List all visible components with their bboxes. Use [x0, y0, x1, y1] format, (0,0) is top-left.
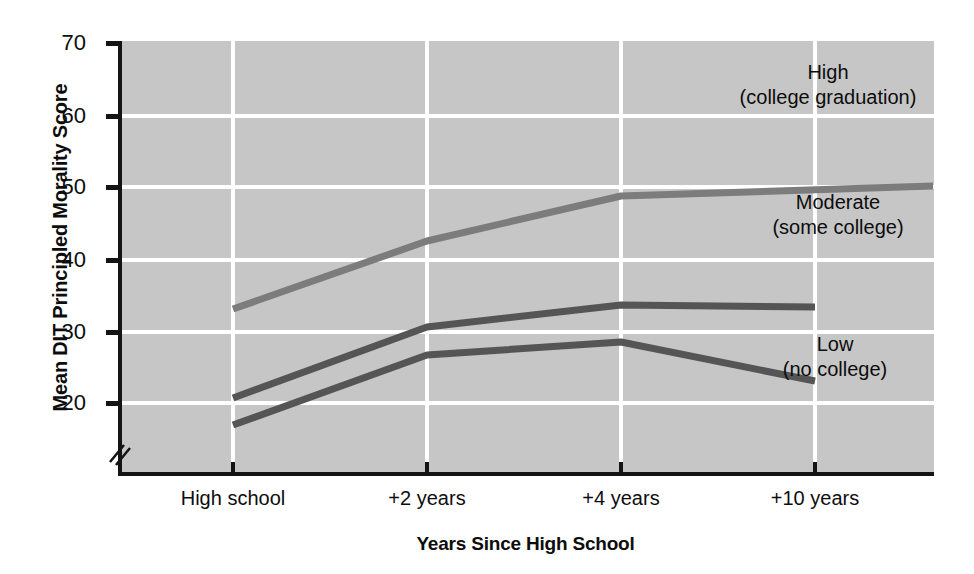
x-tick-mark-plus10 — [813, 462, 817, 474]
series-label-low: Low (no college) — [735, 332, 935, 382]
x-axis-title: Years Since High School — [118, 533, 933, 555]
y-tick-label-50: 50 — [34, 176, 86, 198]
series-label-high-note: (college graduation) — [703, 85, 953, 110]
y-tick-label-30: 30 — [34, 321, 86, 343]
x-tick-label-high-school: High school — [133, 487, 333, 509]
x-tick-mark-plus4 — [619, 462, 623, 474]
series-label-moderate-name: Moderate — [796, 191, 881, 213]
x-tick-label-plus4: +4 years — [521, 487, 721, 509]
x-tick-label-plus2: +2 years — [327, 487, 527, 509]
y-tick-label-60: 60 — [34, 105, 86, 127]
x-tick-mark-plus2 — [425, 462, 429, 474]
y-tick-label-20: 20 — [34, 392, 86, 414]
y-tick-label-70: 70 — [34, 32, 86, 54]
series-label-low-name: Low — [817, 333, 854, 355]
chart-figure: Mean DIT Principled Morality Score 70 60… — [0, 0, 974, 574]
series-label-moderate-note: (some college) — [728, 215, 948, 240]
series-label-moderate: Moderate (some college) — [728, 190, 948, 240]
y-tick-label-40: 40 — [34, 249, 86, 271]
series-label-high: High (college graduation) — [703, 60, 953, 110]
x-tick-label-plus10: +10 years — [715, 487, 915, 509]
x-tick-mark-high-school — [231, 462, 235, 474]
series-label-low-note: (no college) — [735, 357, 935, 382]
series-label-high-name: High — [807, 61, 848, 83]
y-axis-break-icon — [106, 440, 132, 470]
